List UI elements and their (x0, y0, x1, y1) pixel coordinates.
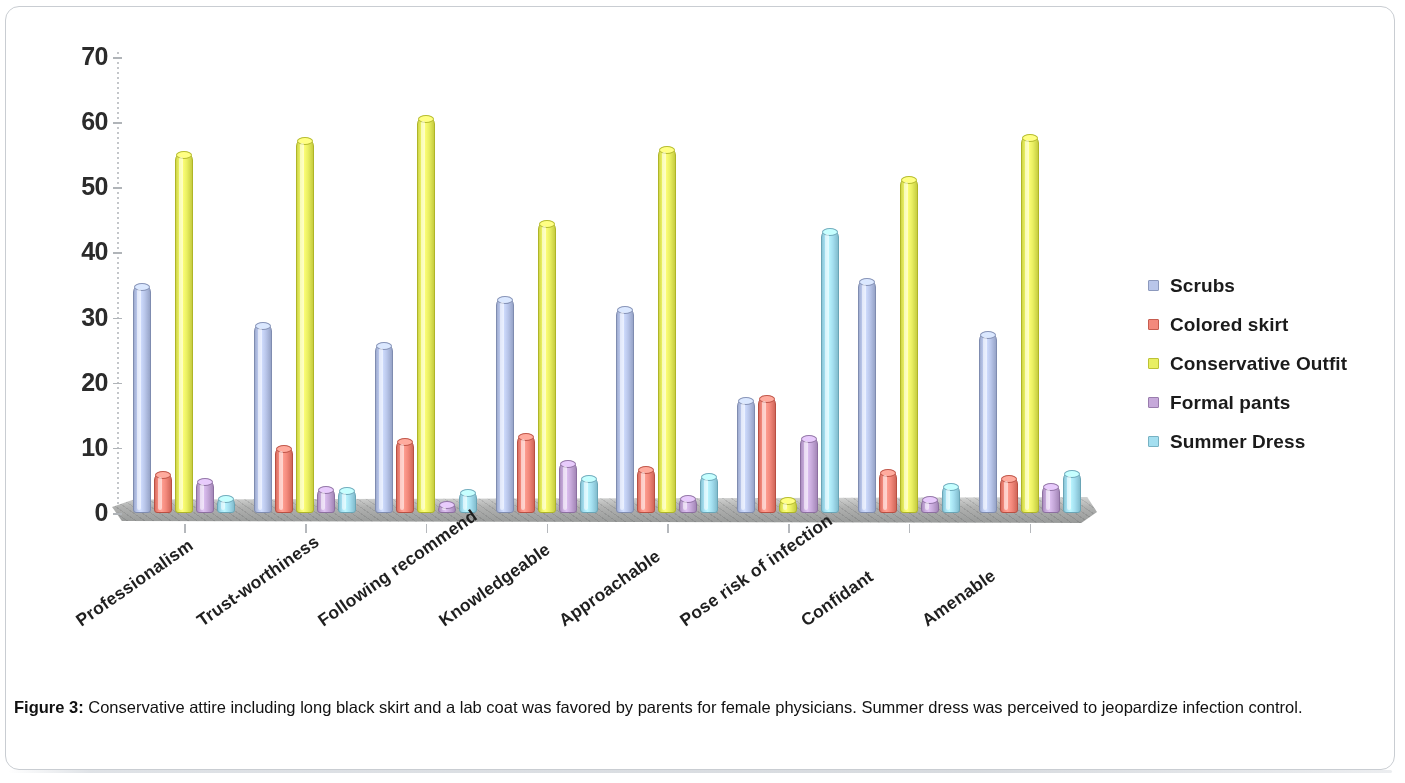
bar-slot (254, 324, 272, 513)
bar-highlight (825, 234, 829, 510)
bar-slot (438, 503, 456, 513)
x-axis-tick-mark (184, 524, 186, 533)
x-axis-label-knowledgeable: Knowledgeable (435, 539, 554, 631)
y-axis-tick-mark (113, 187, 122, 189)
frame-bottom-edge (8, 770, 1392, 773)
x-axis-tick-mark (1030, 524, 1032, 533)
bar-group (737, 13, 839, 513)
bar-highlight (620, 312, 624, 510)
legend-item-formal-pants[interactable]: Formal pants (1148, 383, 1388, 422)
x-axis-tick-mark (788, 524, 790, 533)
bar-slot (637, 468, 655, 513)
bar-highlight (137, 289, 141, 510)
bar-scrubs (858, 280, 876, 513)
legend-item-label: Conservative Outfit (1170, 353, 1347, 375)
bar-highlight (883, 475, 887, 510)
bar-colored-skirt (879, 471, 897, 513)
figure-page: 706050403020100 ProfessionalismTrust-wor… (0, 0, 1405, 783)
bar-slot (417, 117, 435, 513)
bar-slot (700, 475, 718, 513)
bar-group (858, 13, 960, 513)
bar-slot (580, 477, 598, 513)
x-axis-label-confidant: Confidant (797, 566, 877, 631)
figure-caption-label: Figure 3: (14, 698, 84, 716)
bar-conservative-outfit (175, 153, 193, 513)
bar-highlight (641, 472, 645, 510)
bar-highlight (925, 502, 929, 510)
legend-item-label: Scrubs (1170, 275, 1235, 297)
bar-slot (1000, 477, 1018, 513)
bar-top-ellipse (560, 460, 576, 468)
chart-legend: ScrubsColored skirtConservative OutfitFo… (1148, 266, 1388, 461)
legend-swatch-icon (1148, 319, 1159, 330)
bar-slot (921, 498, 939, 513)
bar-slot (858, 280, 876, 513)
legend-swatch-icon (1148, 397, 1159, 408)
bar-summer-dress (700, 475, 718, 513)
bar-conservative-outfit (417, 117, 435, 513)
bar-slot (338, 489, 356, 513)
bar-group (254, 13, 356, 513)
x-axis-tick-mark (547, 524, 549, 533)
bar-highlight (179, 157, 183, 510)
bar-highlight (1046, 489, 1050, 510)
bar-scrubs (375, 344, 393, 513)
bar-highlight (521, 439, 525, 510)
x-axis-tick-mark (909, 524, 911, 533)
bar-slot (538, 222, 556, 513)
bar-slot (616, 308, 634, 513)
figure-caption: Figure 3: Conservative attire including … (14, 696, 1388, 719)
bar-colored-skirt (396, 440, 414, 513)
bar-slot (942, 485, 960, 513)
bar-formal-pants (921, 498, 939, 513)
bar-highlight (258, 328, 262, 510)
legend-item-label: Formal pants (1170, 392, 1291, 414)
legend-item-summer-dress[interactable]: Summer Dress (1148, 422, 1388, 461)
x-axis-label-professionalism: Professionalism (72, 535, 197, 631)
bar-highlight (662, 152, 666, 510)
bar-slot (758, 397, 776, 513)
y-axis-tick-mark (113, 122, 122, 124)
bar-scrubs (496, 298, 514, 513)
bar-highlight (983, 337, 987, 510)
bar-formal-pants (438, 503, 456, 513)
bar-highlight (563, 466, 567, 510)
bar-slot (496, 298, 514, 513)
bar-summer-dress (942, 485, 960, 513)
bar-slot (658, 148, 676, 513)
bar-highlight (584, 481, 588, 510)
bar-highlight (342, 493, 346, 510)
bar-formal-pants (317, 488, 335, 513)
bar-highlight (421, 121, 425, 510)
bar-scrubs (979, 333, 997, 513)
bar-chart: 706050403020100 ProfessionalismTrust-wor… (0, 0, 1405, 660)
bar-summer-dress (821, 230, 839, 513)
bar-slot (1042, 485, 1060, 513)
bar-scrubs (737, 399, 755, 513)
bar-highlight (1004, 481, 1008, 510)
bar-slot (517, 435, 535, 513)
y-axis-tick-mark (113, 252, 122, 254)
legend-item-scrubs[interactable]: Scrubs (1148, 266, 1388, 305)
legend-item-colored-skirt[interactable]: Colored skirt (1148, 305, 1388, 344)
x-axis-label-approachable: Approachable (555, 546, 665, 632)
bar-formal-pants (800, 437, 818, 513)
bar-slot (979, 333, 997, 513)
bar-summer-dress (1063, 472, 1081, 513)
bar-highlight (762, 401, 766, 510)
bar-top-ellipse (980, 331, 996, 339)
bar-conservative-outfit (1021, 136, 1039, 513)
y-axis-tick-mark (113, 513, 122, 515)
bar-highlight (804, 441, 808, 510)
bar-highlight (1025, 140, 1029, 510)
bar-group (616, 13, 718, 513)
bar-slot (1063, 472, 1081, 513)
bar-highlight (542, 226, 546, 510)
bar-highlight (862, 284, 866, 510)
bar-formal-pants (679, 497, 697, 513)
bar-conservative-outfit (900, 178, 918, 513)
bar-group (979, 13, 1081, 513)
bar-slot (737, 399, 755, 513)
x-axis-label-trust-worthiness: Trust-worthiness (193, 531, 323, 631)
legend-item-conservative-outfit[interactable]: Conservative Outfit (1148, 344, 1388, 383)
